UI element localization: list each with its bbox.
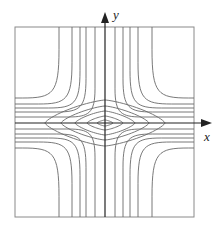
x-axis-arrow-icon	[201, 119, 212, 127]
x-axis-label: x	[203, 129, 210, 144]
quadrant-contour-curve	[123, 27, 194, 112]
quadrant-contour-curve	[15, 27, 95, 117]
quadrant-contour-curve	[123, 134, 194, 217]
quadrant-contour-curve	[152, 148, 194, 217]
contour-plot: x y	[0, 0, 224, 228]
quadrant-contour-curve	[15, 148, 59, 217]
quadrant-contour-curve	[15, 27, 59, 98]
quadrant-contour-curve	[130, 27, 194, 108]
y-axis-arrow-icon	[101, 12, 109, 23]
quadrant-contour-curve	[130, 138, 194, 217]
quadrant-contour-curve	[152, 27, 194, 98]
quadrant-contour-curve	[138, 142, 194, 217]
y-axis-label: y	[111, 7, 119, 22]
quadrant-contour-curve	[138, 27, 194, 104]
quadrant-contour-curve	[15, 138, 80, 217]
quadrant-contour-curve	[15, 27, 72, 104]
quadrant-contour-curve	[15, 27, 80, 108]
quadrant-contour-curve	[15, 142, 72, 217]
